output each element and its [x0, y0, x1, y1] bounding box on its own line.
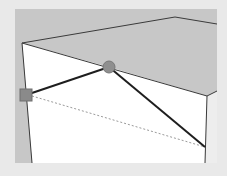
- on-edge-circle-handle[interactable]: [103, 61, 115, 73]
- front-face[interactable]: [22, 43, 207, 163]
- scene-canvas[interactable]: [0, 0, 227, 176]
- top-back-edge: [22, 17, 217, 43]
- endpoint-square-handle[interactable]: [20, 89, 32, 101]
